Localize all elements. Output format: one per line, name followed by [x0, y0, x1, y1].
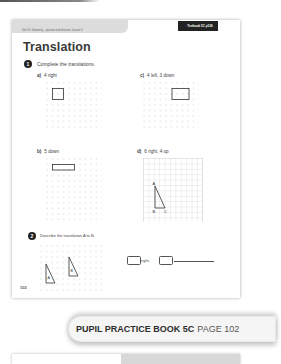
dot-grid-a	[46, 82, 102, 132]
book-page: PAGE 102	[197, 324, 239, 334]
dot-grid-b	[46, 158, 102, 220]
dot-grid-q2: A B	[40, 245, 102, 293]
question-1-text: Complete the translations.	[37, 61, 95, 67]
answer-direction-line[interactable]	[174, 261, 214, 262]
part-b-label: b)5 down	[37, 149, 59, 154]
question-number-1: 1	[24, 60, 32, 68]
part-a-letter: a)	[37, 73, 41, 78]
dot-grid-c	[143, 82, 199, 132]
page-title: Translation	[23, 40, 91, 54]
book-title: PUPIL PRACTICE BOOK 5C	[76, 324, 194, 334]
part-d-letter: d)	[137, 149, 141, 154]
svg-text:A: A	[153, 181, 156, 186]
page-caption-banner: PUPIL PRACTICE BOOK 5C PAGE 102	[68, 316, 276, 342]
part-d-text: 6 right, 4 up	[144, 149, 168, 154]
previous-page-edge	[0, 0, 100, 2]
textbook-reference-badge: → Textbook 5C p126	[178, 21, 218, 31]
part-b-letter: b)	[37, 149, 41, 154]
part-c-letter: c)	[140, 73, 144, 78]
workbook-page: Unit 10: Geometry – position and directi…	[12, 20, 240, 298]
next-page-edge	[12, 354, 240, 364]
part-b-text: 5 down	[44, 149, 59, 154]
answer-box-right[interactable]	[127, 256, 141, 265]
answer-word-right: right,	[141, 258, 150, 263]
square-grid-d: A B C	[143, 158, 203, 222]
svg-text:B: B	[153, 209, 156, 214]
answer-box-vertical[interactable]	[159, 256, 173, 265]
part-c-text: 4 left, 3 down	[147, 73, 174, 78]
unit-header-text: Unit 10: Geometry – position and directi…	[22, 29, 82, 32]
page-number: 102	[20, 285, 27, 290]
svg-text:C: C	[164, 209, 167, 214]
part-a-text: 4 right	[44, 73, 57, 78]
part-c-label: c)4 left, 3 down	[140, 73, 174, 78]
question-number-2: 2	[28, 232, 36, 240]
question-2-text: Describe the translation A to B.	[40, 233, 95, 238]
part-d-label: d)6 right, 4 up	[137, 149, 169, 154]
part-a-label: a)4 right	[37, 73, 57, 78]
